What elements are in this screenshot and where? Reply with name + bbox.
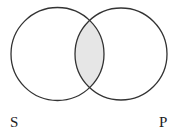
set-label-s: S [10,115,18,130]
venn-diagram [0,0,175,133]
set-label-p: P [159,115,167,130]
